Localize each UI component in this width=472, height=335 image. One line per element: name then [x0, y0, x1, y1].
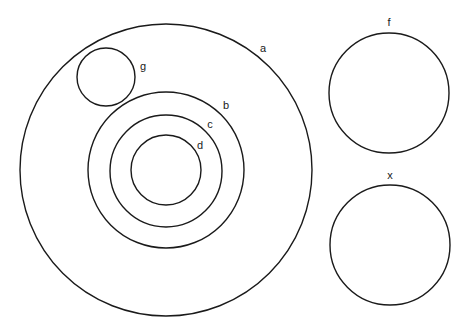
set-circle-g: [77, 48, 135, 106]
set-label-c: c: [207, 118, 213, 130]
set-diagram: agbcdfx: [0, 0, 472, 335]
set-circle-f: [329, 33, 449, 153]
set-label-f: f: [387, 16, 391, 28]
set-label-x: x: [387, 169, 393, 181]
set-label-b: b: [223, 99, 229, 111]
set-circle-c: [110, 115, 222, 227]
set-label-d: d: [197, 139, 203, 151]
set-circle-a: [20, 24, 312, 316]
set-circle-x: [330, 185, 450, 305]
set-label-a: a: [260, 42, 267, 54]
set-label-g: g: [140, 60, 146, 72]
set-circle-d: [131, 135, 201, 205]
